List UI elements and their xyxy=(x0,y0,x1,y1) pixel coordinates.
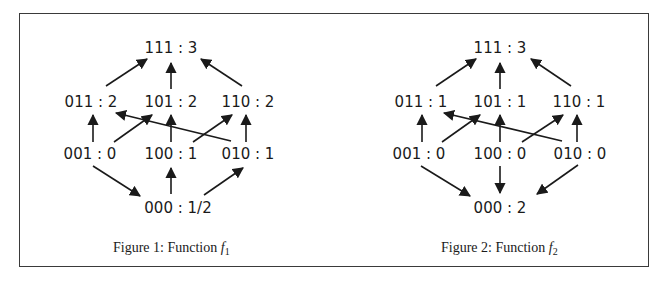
edge-110-111 xyxy=(531,59,571,86)
figure-1-edges xyxy=(93,59,246,196)
edge-001-000 xyxy=(421,166,470,196)
edge-100-110 xyxy=(522,115,563,142)
node-101: 101 : 1 xyxy=(474,93,527,111)
edge-011-111 xyxy=(436,59,476,86)
figure-2: 111 : 3 011 : 1 101 : 1 110 : 1 001 : 0 … xyxy=(393,39,607,257)
node-011: 011 : 1 xyxy=(395,93,448,111)
figure-1: 111 : 3 011 : 2 101 : 2 110 : 2 001 : 0 … xyxy=(64,39,275,257)
node-010: 010 : 1 xyxy=(222,145,275,163)
node-100: 100 : 1 xyxy=(145,145,198,163)
node-000: 000 : 1/2 xyxy=(144,199,211,217)
caption-prefix: Figure 2: Function xyxy=(441,240,549,255)
figure-1-nodes: 111 : 3 011 : 2 101 : 2 110 : 2 001 : 0 … xyxy=(64,39,275,217)
edge-001-101 xyxy=(114,115,152,142)
figure-1-caption: Figure 1: Function f1 xyxy=(113,240,230,257)
node-101: 101 : 2 xyxy=(145,93,198,111)
caption-prefix: Figure 1: Function xyxy=(113,240,221,255)
figure-2-edges xyxy=(421,59,578,196)
node-011: 011 : 2 xyxy=(65,93,118,111)
caption-subscript: 1 xyxy=(225,246,230,257)
caption-subscript: 2 xyxy=(553,246,558,257)
node-000: 000 : 2 xyxy=(474,199,527,217)
edge-001-101 xyxy=(442,115,480,142)
node-110: 110 : 1 xyxy=(553,93,606,111)
edge-000-010 xyxy=(204,168,243,195)
node-100: 100 : 0 xyxy=(474,145,527,163)
node-111: 111 : 3 xyxy=(474,39,527,57)
node-110: 110 : 2 xyxy=(222,93,275,111)
figure-2-caption: Figure 2: Function f2 xyxy=(441,240,558,257)
hypercube-diagrams: 111 : 3 011 : 2 101 : 2 110 : 2 001 : 0 … xyxy=(0,0,665,282)
edge-001-000 xyxy=(93,166,140,196)
edge-100-110 xyxy=(193,115,232,142)
edge-011-111 xyxy=(106,59,147,86)
node-001: 001 : 0 xyxy=(393,145,446,163)
node-111: 111 : 3 xyxy=(145,39,198,57)
edge-110-111 xyxy=(201,59,242,86)
node-010: 010 : 0 xyxy=(554,145,607,163)
node-001: 001 : 0 xyxy=(64,145,117,163)
edge-010-000 xyxy=(537,165,578,194)
